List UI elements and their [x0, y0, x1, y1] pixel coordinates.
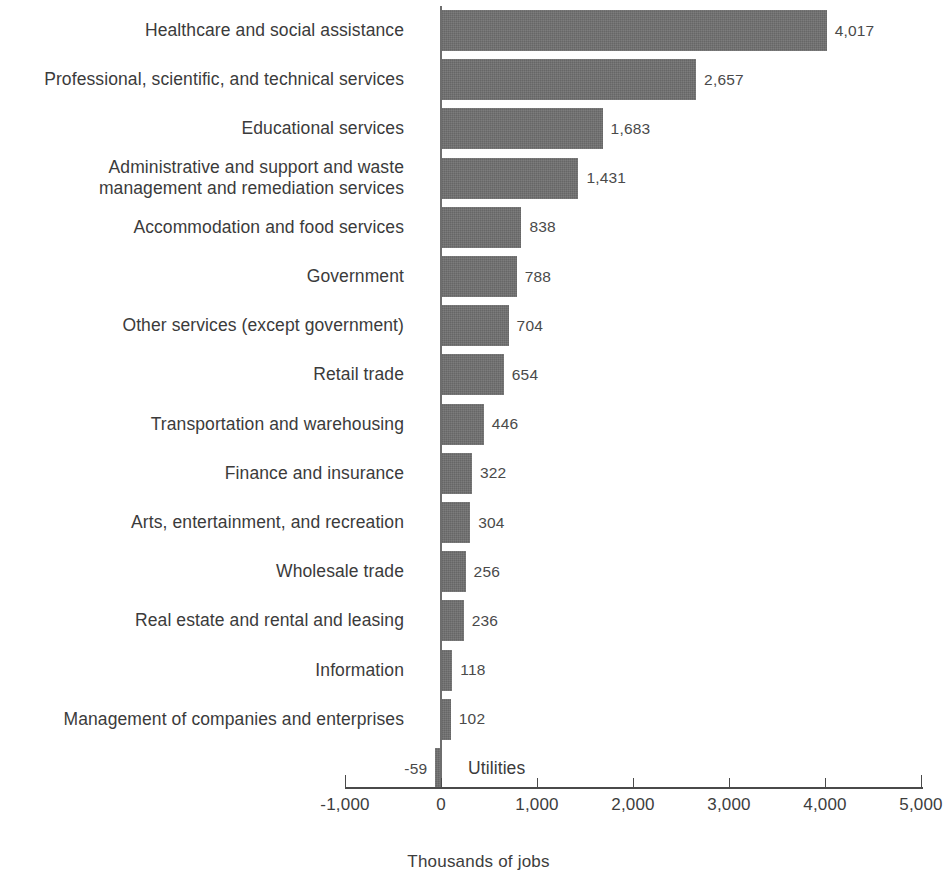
chart-row: Real estate and rental and leasing236 — [0, 596, 945, 645]
bar-value-label: 446 — [492, 400, 518, 449]
x-tick-1000 — [537, 778, 538, 788]
bar-value-label: 304 — [478, 498, 504, 547]
bar-chart: Healthcare and social assistance4,017Pro… — [0, 0, 945, 885]
plot-area: Healthcare and social assistance4,017Pro… — [0, 0, 945, 885]
bar-value-label: 236 — [472, 596, 498, 645]
bar-value-label: 704 — [517, 301, 543, 350]
x-tick-3000 — [729, 778, 730, 788]
bar[interactable] — [441, 10, 827, 51]
bar[interactable] — [441, 502, 470, 543]
bar[interactable] — [441, 305, 509, 346]
x-tick-label: 4,000 — [803, 795, 847, 815]
chart-row: Accommodation and food services838 — [0, 203, 945, 252]
bar-value-label: 256 — [474, 547, 500, 596]
bar-value-label: 118 — [460, 646, 485, 695]
bar-value-label: 654 — [512, 350, 538, 399]
x-axis-title: Thousands of jobs — [0, 852, 945, 872]
category-label: Management of companies and enterprises — [24, 695, 404, 744]
bar[interactable] — [441, 59, 696, 100]
x-tick--1000 — [345, 775, 346, 788]
bar[interactable] — [441, 158, 578, 199]
category-label: Utilities — [468, 744, 668, 793]
bar[interactable] — [441, 404, 484, 445]
chart-row: Arts, entertainment, and recreation304 — [0, 498, 945, 547]
chart-row: Government788 — [0, 252, 945, 301]
bar-value-label: 1,431 — [586, 154, 626, 203]
chart-row: Wholesale trade256 — [0, 547, 945, 596]
category-label: Real estate and rental and leasing — [24, 596, 404, 645]
bar-value-label: -59 — [404, 744, 427, 793]
category-label: Government — [24, 252, 404, 301]
x-axis-title-text: Thousands of jobs — [407, 852, 549, 872]
x-tick-2000 — [633, 778, 634, 788]
bar-value-label: 102 — [459, 695, 485, 744]
category-label: Professional, scientific, and technical … — [24, 55, 404, 104]
x-tick-label: 3,000 — [707, 795, 751, 815]
bar[interactable] — [441, 453, 472, 494]
chart-row: Management of companies and enterprises1… — [0, 695, 945, 744]
chart-row: Finance and insurance322 — [0, 449, 945, 498]
bar-value-label: 2,657 — [704, 55, 744, 104]
x-tick-label: 0 — [436, 795, 446, 815]
category-label: Other services (except government) — [24, 301, 404, 350]
bar-value-label: 838 — [529, 203, 555, 252]
chart-row: Professional, scientific, and technical … — [0, 55, 945, 104]
bar-value-label: 4,017 — [835, 6, 875, 55]
x-axis-line — [345, 787, 923, 789]
bar[interactable] — [441, 207, 521, 248]
bar-value-label: 788 — [525, 252, 551, 301]
category-label: Finance and insurance — [24, 449, 404, 498]
category-label: Administrative and support and wastemana… — [24, 154, 404, 203]
bar[interactable] — [441, 256, 517, 297]
x-tick-label: -1,000 — [320, 795, 369, 815]
x-tick-0 — [441, 778, 442, 788]
chart-row: Retail trade654 — [0, 350, 945, 399]
x-tick-4000 — [825, 778, 826, 788]
bar[interactable] — [441, 699, 451, 740]
chart-row: Other services (except government)704 — [0, 301, 945, 350]
y-axis-line — [440, 6, 442, 788]
category-label: Retail trade — [24, 350, 404, 399]
x-tick-label: 1,000 — [515, 795, 559, 815]
bar-value-label: 322 — [480, 449, 506, 498]
category-label: Accommodation and food services — [24, 203, 404, 252]
category-label: Healthcare and social assistance — [24, 6, 404, 55]
bar[interactable] — [441, 650, 452, 691]
chart-row: Healthcare and social assistance4,017 — [0, 6, 945, 55]
bar[interactable] — [441, 354, 504, 395]
category-label: Educational services — [24, 104, 404, 153]
category-label: Information — [24, 646, 404, 695]
x-tick-label: 5,000 — [899, 795, 943, 815]
chart-row: Transportation and warehousing446 — [0, 400, 945, 449]
x-tick-5000 — [921, 775, 922, 788]
chart-row: Utilities-59 — [0, 744, 945, 793]
chart-row: Administrative and support and wastemana… — [0, 154, 945, 203]
category-label: Arts, entertainment, and recreation — [24, 498, 404, 547]
bar[interactable] — [441, 108, 603, 149]
bar[interactable] — [441, 600, 464, 641]
bar-value-label: 1,683 — [611, 104, 651, 153]
category-label: Wholesale trade — [24, 547, 404, 596]
bar[interactable] — [441, 551, 466, 592]
chart-row: Information118 — [0, 646, 945, 695]
chart-row: Educational services1,683 — [0, 104, 945, 153]
category-label: Transportation and warehousing — [24, 400, 404, 449]
x-tick-label: 2,000 — [611, 795, 655, 815]
